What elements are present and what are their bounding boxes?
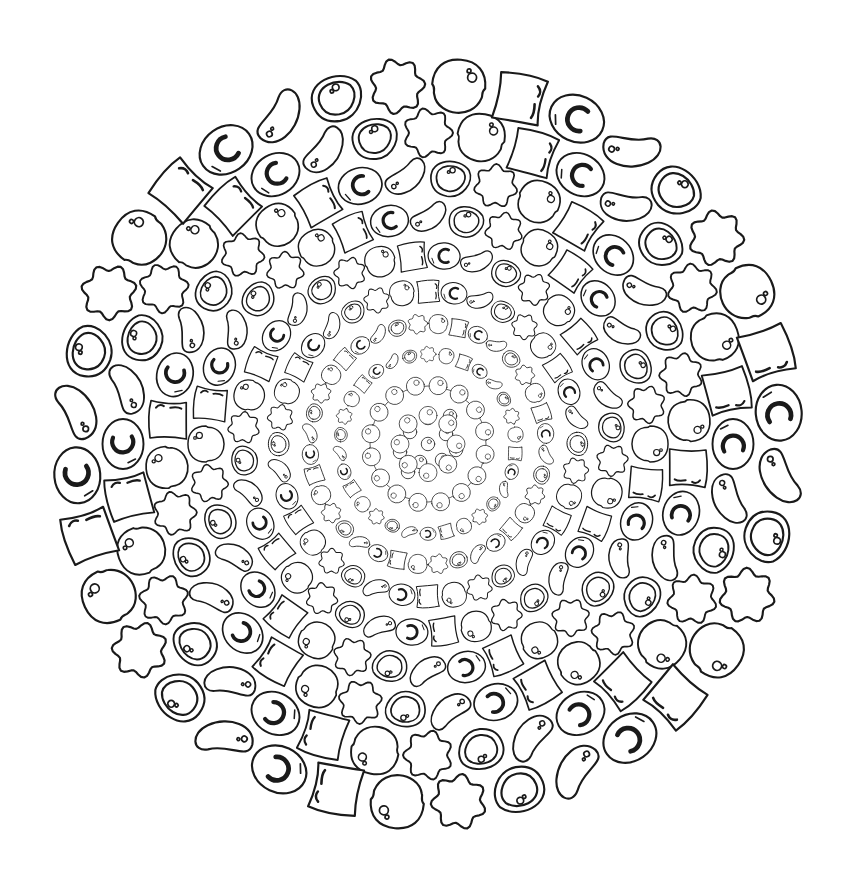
square-shape [416,585,439,608]
bean-shape [757,448,805,504]
square-shape [103,472,155,523]
bubble-circle-shape [271,376,303,408]
bubble-circle-shape [679,613,753,687]
flower-shape [655,350,707,402]
square-shape [512,659,564,711]
bubble-circle-shape [440,580,469,609]
double-triangle-shape [484,494,503,513]
egg-crescent-shape [713,419,754,469]
bean-shape [295,124,352,176]
dot-shape [391,435,409,453]
egg-crescent-shape [577,344,614,384]
bean-shape [246,86,311,147]
bubble-circle-shape [632,426,668,462]
bubble-circle-shape [428,314,449,335]
dot-shape [430,491,451,512]
square-shape [387,549,409,571]
double-triangle-shape [515,579,553,616]
bean-shape [565,404,589,431]
double-triangle-shape [387,318,408,338]
bubble-circle-shape [522,380,547,405]
mandala-artwork [0,0,856,889]
egg-crescent-shape [420,527,436,540]
bubble-circle-shape [341,389,362,410]
double-triangle-shape [567,432,588,455]
dot-shape [368,465,393,490]
egg-crescent-shape [387,582,416,608]
flower-shape [463,572,495,604]
bean-shape [597,116,664,181]
double-triangle-shape [448,550,469,570]
bubble-circle-shape [308,482,333,507]
flower-shape [710,561,782,633]
bean-shape [401,525,418,540]
bean-shape [504,712,561,764]
egg-crescent-shape [395,618,429,647]
egg-crescent-shape [103,419,144,469]
square-shape [507,446,523,461]
bubble-circle-shape [454,516,474,536]
square-shape [701,365,753,416]
bubble-circle-shape [368,773,426,831]
egg-crescent-shape [658,487,704,539]
double-triangle-shape [383,517,401,534]
mandala-rings [51,57,804,832]
bean-shape [383,353,402,370]
dot-shape [447,382,472,407]
bean-shape [191,707,258,772]
dot-shape [419,406,437,424]
egg-crescent-shape [301,444,319,465]
bubble-circle-shape [144,445,189,490]
double-triangle-shape [334,427,348,443]
bean-shape [465,286,495,313]
square-shape [482,634,525,677]
egg-crescent-shape [470,679,522,725]
double-triangle-shape [167,531,215,582]
double-triangle-shape [384,690,426,728]
flower-shape [625,384,668,426]
bean-shape [165,305,213,356]
square-shape [531,402,553,424]
egg-crescent-shape [503,462,520,481]
bean-shape [103,364,149,416]
flower-shape [365,506,387,528]
bean-shape [459,245,494,277]
bean-shape [232,476,264,511]
bean-shape [484,374,503,393]
bubble-circle-shape [231,377,268,414]
bean-shape [301,424,318,444]
egg-crescent-shape [334,163,386,209]
dot-shape [428,375,449,396]
square-shape [331,210,374,253]
bean-shape [362,611,397,643]
double-triangle-shape [307,71,367,127]
bubble-circle-shape [511,500,537,526]
double-triangle-shape [687,522,740,578]
egg-crescent-shape [368,202,411,239]
dot-shape [474,420,495,441]
flower-shape [561,457,590,486]
flower-shape [266,402,295,431]
egg-crescent-shape [336,462,353,481]
double-triangle-shape [616,346,656,388]
bubble-circle-shape [507,426,524,443]
double-triangle-shape [166,613,225,673]
double-triangle-shape [401,349,418,364]
flower-shape [370,57,428,116]
center-dot [421,437,435,451]
bubble-circle-shape [666,398,711,443]
double-triangle-shape [429,160,471,198]
bubble-circle-shape [407,554,428,575]
square-shape [666,447,709,489]
double-triangle-shape [231,445,259,476]
flower-shape [408,314,429,335]
flower-shape [73,255,145,327]
double-triangle-shape [200,500,240,542]
double-triangle-shape [338,297,369,327]
dot-shape [464,463,489,488]
dot-shape [463,398,488,423]
dot-shape [447,435,465,453]
bean-shape [333,445,347,461]
egg-crescent-shape [427,242,461,271]
flower-shape [428,772,486,831]
